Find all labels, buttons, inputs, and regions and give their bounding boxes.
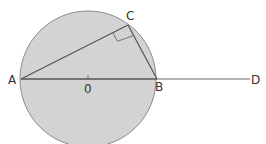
label-d: D (251, 73, 260, 87)
label-a: A (8, 73, 17, 87)
label-b: B (155, 80, 163, 94)
geometry-diagram: A C B D 0 (0, 0, 266, 144)
label-o: 0 (84, 82, 92, 96)
label-c: C (126, 9, 134, 23)
